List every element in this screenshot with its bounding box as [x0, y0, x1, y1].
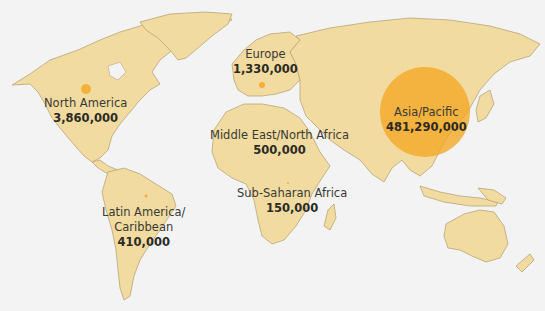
region-name: Sub-Saharan Africa	[237, 186, 347, 201]
landmass-new-zealand	[516, 254, 534, 272]
label-latin-america-caribbean: Latin America/ Caribbean 410,000	[102, 205, 185, 250]
region-name: Asia/Pacific	[386, 105, 467, 120]
region-name-line1: Latin America/	[102, 205, 185, 220]
label-asia-pacific: Asia/Pacific 481,290,000	[386, 105, 467, 135]
label-europe: Europe 1,330,000	[233, 47, 298, 77]
label-middle-east-north-africa: Middle East/North Africa 500,000	[210, 128, 349, 158]
bubble-latin-america-caribbean	[145, 195, 148, 198]
region-value: 150,000	[237, 201, 347, 216]
world-map: North America 3,860,000 Europe 1,330,000…	[0, 0, 545, 311]
bubble-europe	[259, 82, 265, 88]
landmass-africa	[212, 104, 330, 244]
landmass-japan	[476, 90, 494, 122]
label-north-america: North America 3,860,000	[44, 96, 127, 126]
region-value: 3,860,000	[44, 111, 127, 126]
region-name: Europe	[233, 47, 298, 62]
region-name-line2: Caribbean	[102, 220, 185, 235]
region-value: 500,000	[210, 143, 349, 158]
region-value: 410,000	[102, 235, 185, 250]
bubble-sub-saharan-africa	[287, 182, 289, 184]
region-name: Middle East/North Africa	[210, 128, 349, 143]
bubble-north-america	[81, 84, 91, 94]
region-value: 481,290,000	[386, 120, 467, 135]
label-sub-saharan-africa: Sub-Saharan Africa 150,000	[237, 186, 347, 216]
region-value: 1,330,000	[233, 62, 298, 77]
region-name: North America	[44, 96, 127, 111]
landmass-australia	[444, 210, 508, 262]
